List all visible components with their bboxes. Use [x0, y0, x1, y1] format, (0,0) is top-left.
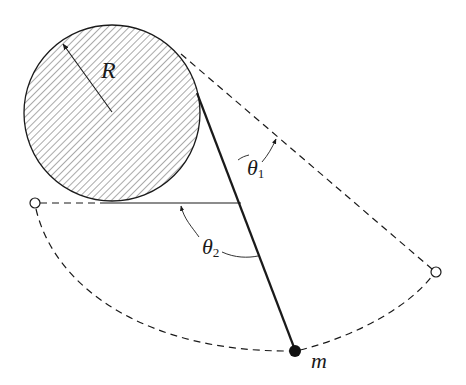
theta2-leader: [222, 252, 258, 257]
trajectory-left-arc: [36, 209, 290, 351]
theta2-label: θ2: [202, 236, 219, 260]
mass-bob: [289, 345, 301, 357]
radius-label: R: [101, 58, 116, 82]
theta1-subscript: 1: [258, 166, 265, 181]
trajectory-right-arc: [300, 276, 432, 350]
mass-label: m: [311, 350, 327, 372]
right-extreme-point: [431, 267, 441, 277]
pendulum-diagram: [0, 0, 466, 385]
left-extreme-point: [30, 198, 40, 208]
theta2-subscript: 2: [213, 245, 220, 260]
theta1-symbol: θ: [247, 155, 258, 180]
theta1-label: θ1: [247, 157, 264, 181]
pendulum-string: [197, 93, 295, 350]
theta2-arc: [181, 206, 199, 237]
theta2-symbol: θ: [202, 234, 213, 259]
cylinder: [20, 20, 210, 210]
